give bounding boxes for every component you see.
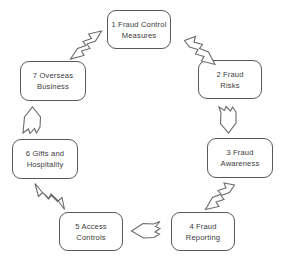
arrow-5-to-6-icon xyxy=(33,181,67,212)
diagram-node-5-label: 5 Access Controls xyxy=(75,221,107,243)
diagram-node-1: 1 Fraud Control Measures xyxy=(107,10,171,49)
diagram-node-3: 3 Fraud Awareness xyxy=(207,138,273,178)
arrow-6-to-7-icon xyxy=(20,105,46,135)
arrow-2-to-3-icon xyxy=(216,105,242,135)
arrow-3-to-4-icon xyxy=(203,181,237,212)
diagram-node-4: 4 Fraud Reporting xyxy=(171,212,235,251)
diagram-node-1-label: 1 Fraud Control Measures xyxy=(111,19,166,41)
arrow-1-to-2-icon xyxy=(182,34,218,67)
diagram-node-7: 7 Overseas Business xyxy=(20,61,86,101)
diagram-node-6: 6 Gifts and Hospitality xyxy=(12,139,78,179)
diagram-node-2-label: 2 Fraud Risks xyxy=(216,69,243,91)
arrow-7-to-1-icon xyxy=(68,29,104,62)
diagram-node-5: 5 Access Controls xyxy=(59,212,123,251)
arrow-4-to-5-icon xyxy=(129,219,163,244)
diagram-node-7-label: 7 Overseas Business xyxy=(33,70,73,92)
fraud-control-cycle-diagram: 1 Fraud Control Measures 2 Fraud Risks 3… xyxy=(0,0,284,265)
diagram-node-6-label: 6 Gifts and Hospitality xyxy=(26,148,64,170)
diagram-node-4-label: 4 Fraud Reporting xyxy=(186,221,220,243)
diagram-node-3-label: 3 Fraud Awareness xyxy=(221,147,260,169)
